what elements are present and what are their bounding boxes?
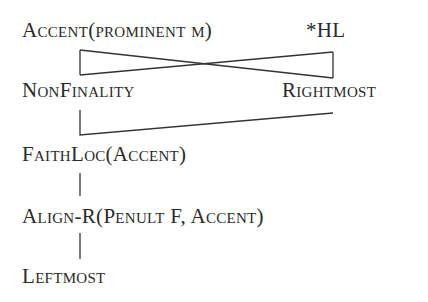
- node-faithloc: FaithLoc(Accent): [22, 144, 186, 165]
- node-leftmost: Leftmost: [22, 266, 106, 287]
- node-rightmost: Rightmost: [282, 80, 376, 101]
- node-align: Align-R(Penult F, Accent): [22, 206, 264, 227]
- node-hl: *HL: [306, 20, 345, 41]
- node-nonfinality: NonFinality: [22, 80, 135, 101]
- node-accent: Accent(prominent μ): [22, 20, 212, 41]
- edge-tier2-faithloc: [80, 110, 333, 135]
- edge-hl-nonfinality: [80, 52, 333, 75]
